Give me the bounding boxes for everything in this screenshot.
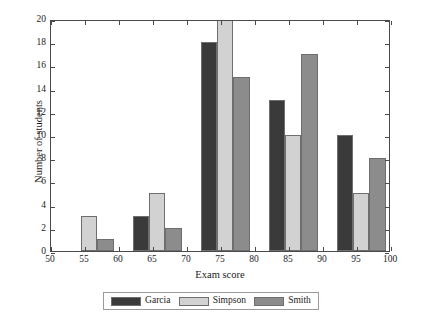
x-tick: [85, 247, 86, 251]
legend-swatch-smith: [254, 297, 284, 306]
x-tick: [357, 247, 358, 251]
y-tick: [51, 44, 55, 45]
x-tick: [187, 247, 188, 251]
x-tick-top: [255, 21, 256, 25]
y-tick-right: [385, 183, 389, 184]
bar-simpson-80-90: [285, 135, 301, 251]
x-tick: [323, 247, 324, 251]
legend-label: Garcia: [145, 296, 170, 306]
bar-garcia-60-70: [133, 216, 149, 251]
y-tick: [51, 183, 55, 184]
plot-area: [50, 20, 390, 252]
x-tick: [119, 247, 120, 251]
y-tick: [51, 160, 55, 161]
x-tick-top: [289, 21, 290, 25]
bar-simpson-70-80: [217, 21, 233, 251]
y-tick-right: [385, 114, 389, 115]
legend-item-smith: Smith: [254, 296, 311, 306]
x-tick-label: 50: [45, 255, 55, 265]
y-tick: [51, 91, 55, 92]
x-tick-top: [323, 21, 324, 25]
x-tick: [255, 247, 256, 251]
x-axis-title: Exam score: [50, 269, 390, 280]
y-tick-right: [385, 67, 389, 68]
bar-simpson-60-70: [149, 193, 165, 251]
chart-legend: GarciaSimpsonSmith: [103, 292, 319, 310]
y-axis-title: Number of students: [33, 52, 44, 232]
y-tick-right: [385, 160, 389, 161]
x-tick-label: 80: [249, 255, 259, 265]
x-tick-top: [51, 21, 52, 25]
x-tick-label: 100: [383, 255, 397, 265]
x-tick-top: [357, 21, 358, 25]
x-tick-top: [85, 21, 86, 25]
x-tick-top: [187, 21, 188, 25]
x-tick-label: 85: [283, 255, 293, 265]
x-tick: [391, 247, 392, 251]
y-tick: [51, 137, 55, 138]
x-tick: [153, 247, 154, 251]
legend-item-simpson: Simpson: [179, 296, 246, 306]
bars-layer: [51, 21, 389, 251]
bar-smith-70-80: [233, 77, 249, 251]
y-tick-label: 20: [37, 15, 47, 25]
x-tick-label: 70: [181, 255, 191, 265]
bar-smith-60-70: [165, 228, 181, 251]
y-tick-right: [385, 21, 389, 22]
x-tick: [289, 247, 290, 251]
bar-simpson-90-100: [353, 193, 369, 251]
bar-smith-80-90: [301, 54, 317, 251]
bar-smith-90-100: [369, 158, 385, 251]
bar-garcia-70-80: [201, 42, 217, 251]
legend-item-garcia: Garcia: [111, 296, 170, 306]
y-tick-right: [385, 230, 389, 231]
y-tick-right: [385, 207, 389, 208]
x-tick: [221, 247, 222, 251]
bar-simpson-50-60: [81, 216, 97, 251]
x-tick-top: [153, 21, 154, 25]
x-tick-top: [391, 21, 392, 25]
legend-label: Smith: [288, 296, 311, 306]
x-tick-label: 55: [79, 255, 89, 265]
y-tick-right: [385, 44, 389, 45]
y-tick-label: 18: [37, 38, 47, 48]
x-tick-top: [119, 21, 120, 25]
x-tick: [51, 247, 52, 251]
y-tick-right: [385, 91, 389, 92]
y-tick-right: [385, 137, 389, 138]
x-tick-label: 65: [147, 255, 157, 265]
y-tick: [51, 114, 55, 115]
x-tick-label: 90: [317, 255, 327, 265]
bar-garcia-80-90: [269, 100, 285, 251]
x-tick-label: 95: [351, 255, 361, 265]
legend-swatch-simpson: [179, 297, 209, 306]
x-tick-top: [221, 21, 222, 25]
y-tick: [51, 67, 55, 68]
x-tick-label: 75: [215, 255, 225, 265]
x-tick-label: 60: [113, 255, 123, 265]
y-tick: [51, 230, 55, 231]
bar-garcia-90-100: [337, 135, 353, 251]
y-tick: [51, 207, 55, 208]
bar-smith-50-60: [97, 239, 113, 251]
legend-swatch-garcia: [111, 297, 141, 306]
legend-label: Simpson: [213, 296, 246, 306]
chart-figure: 02468101214161820 5055606570758085909510…: [0, 0, 422, 318]
